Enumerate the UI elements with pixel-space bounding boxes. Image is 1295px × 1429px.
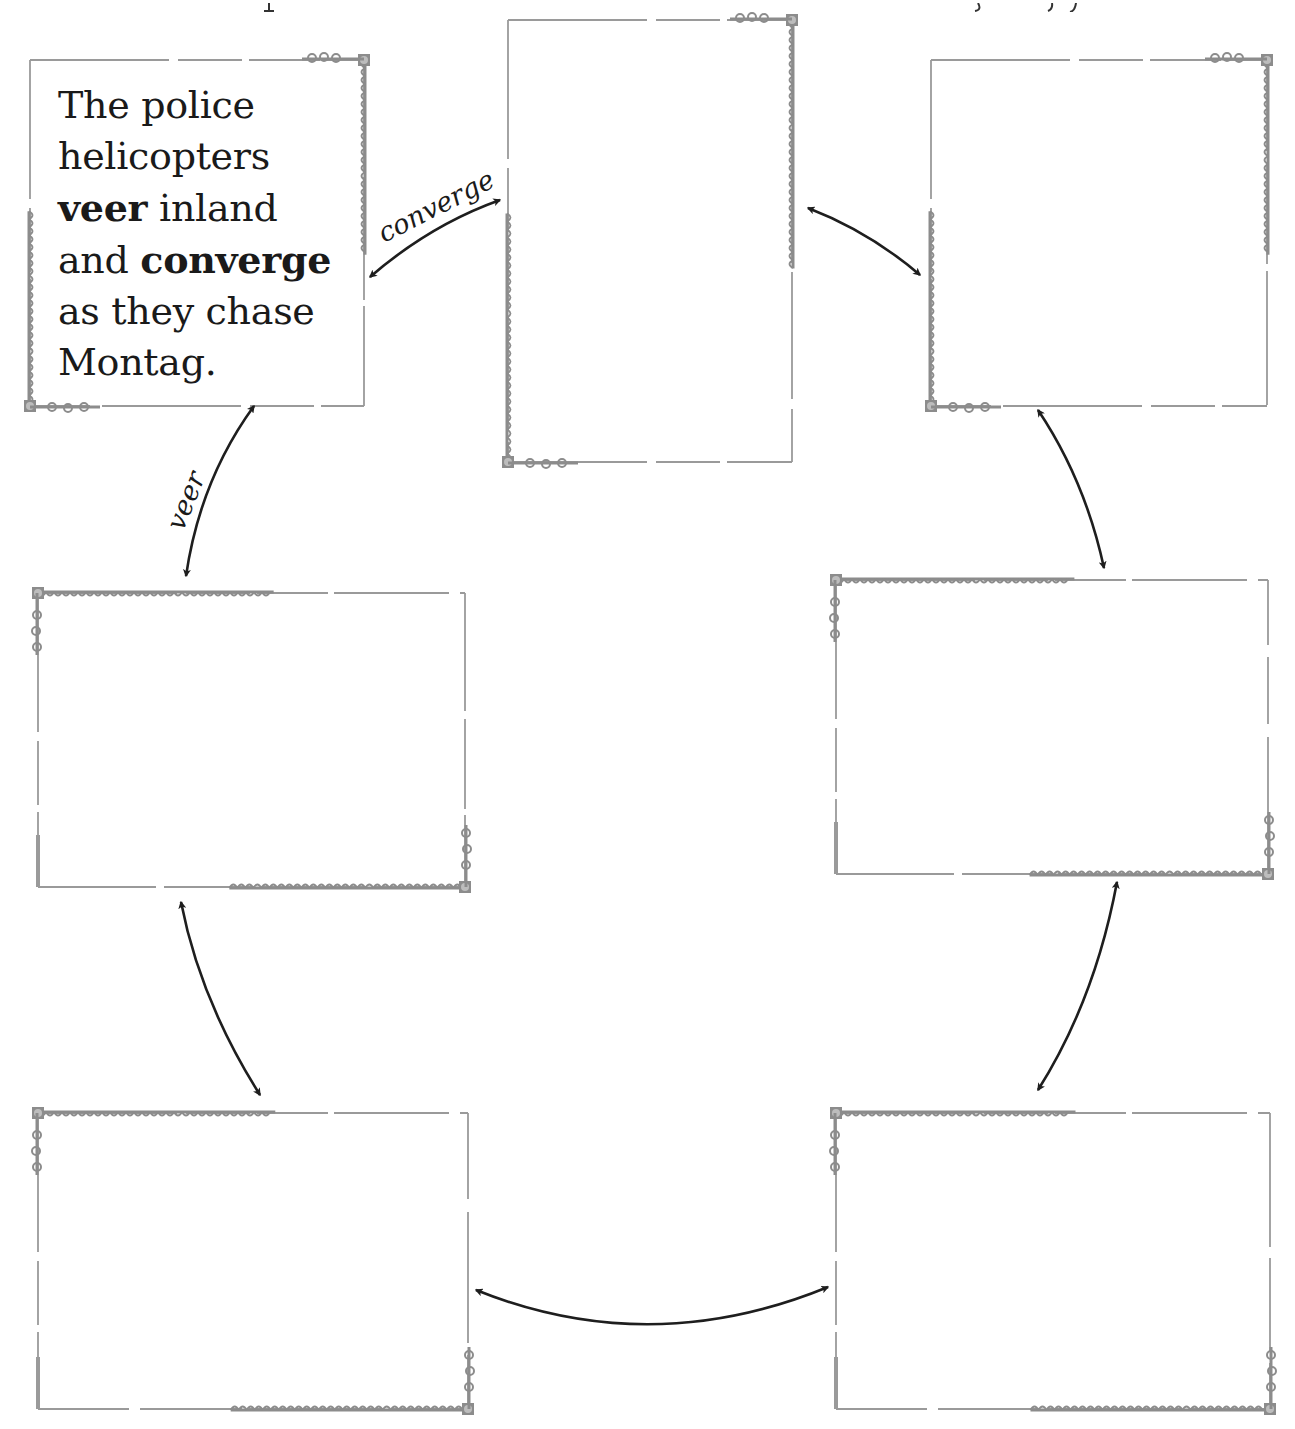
arrow-frame1-frame2	[370, 200, 500, 277]
vocab-word-converge: converge	[140, 237, 331, 282]
frame-6-empty-box[interactable]	[30, 1105, 476, 1417]
sentence-line-6: Montag.	[58, 337, 352, 388]
word-chain-organizer: The police helicopters veer inland and c…	[0, 0, 1295, 1429]
frame-border	[500, 12, 800, 470]
frame-2-empty-box[interactable]	[500, 12, 800, 470]
label-converge: converge	[373, 163, 499, 248]
frame-border	[923, 52, 1275, 414]
frame-border	[828, 1105, 1278, 1417]
frame-3-empty-box[interactable]	[923, 52, 1275, 414]
vocab-word-veer: veer	[58, 185, 147, 230]
arrow-frame6-frame4	[181, 902, 260, 1095]
sentence-line-5: as they chase	[58, 286, 352, 337]
arrow-frame4-frame1	[186, 406, 254, 576]
clipped-instructions-line	[0, 0, 1295, 12]
frame-1-text-box[interactable]: The police helicopters veer inland and c…	[22, 52, 372, 414]
sentence-line-1: The police	[58, 80, 352, 131]
sentence-fragment: and	[58, 238, 140, 282]
frame-border	[828, 572, 1276, 882]
arrow-frame2-frame3	[808, 208, 920, 275]
arrow-frame7-frame6	[476, 1287, 828, 1324]
arrow-frame3-frame5	[1038, 410, 1104, 568]
frame-7-empty-box[interactable]	[828, 1105, 1278, 1417]
frame-5-empty-box[interactable]	[828, 572, 1276, 882]
clipped-descenders	[0, 3, 1295, 12]
sentence-line-3: veer inland	[58, 182, 352, 234]
frame-border	[30, 585, 473, 895]
frame-border	[30, 1105, 476, 1417]
sentence-fragment: inland	[147, 186, 277, 230]
sentence-line-4: and converge	[58, 234, 352, 286]
sentence-line-2: helicopters	[58, 131, 352, 182]
arrow-frame5-frame7	[1038, 882, 1117, 1090]
frame-1-sentence: The police helicopters veer inland and c…	[58, 80, 352, 388]
frame-4-empty-box[interactable]	[30, 585, 473, 895]
